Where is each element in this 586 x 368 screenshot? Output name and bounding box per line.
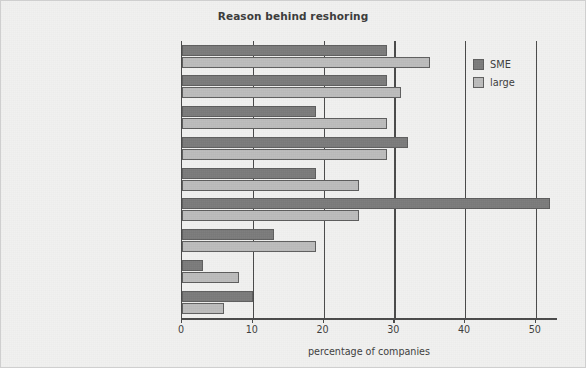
category-row: improve customer collaboration — [182, 287, 556, 318]
x-tick-mark-0 — [181, 318, 182, 323]
x-tick-mark-20 — [323, 318, 324, 323]
legend: SMElarge — [473, 59, 515, 95]
x-tick-label-20: 20 — [303, 324, 343, 335]
x-tick-label-40: 40 — [444, 324, 484, 335]
bar-sme — [182, 291, 253, 302]
legend-label: large — [490, 77, 515, 88]
chart-figure: Reason behind reshoring more certainty o… — [0, 0, 586, 368]
bar-sme — [182, 45, 387, 56]
legend-item-large[interactable]: large — [473, 77, 515, 88]
bar-large — [182, 241, 316, 252]
legend-swatch-icon — [473, 59, 484, 70]
bar-large — [182, 180, 359, 191]
bar-large — [182, 87, 401, 98]
bar-large — [182, 57, 430, 68]
category-row: improve environmental credentials — [182, 256, 556, 287]
x-tick-label-10: 10 — [232, 324, 272, 335]
bar-large — [182, 149, 387, 160]
bar-sme — [182, 75, 387, 86]
category-row: minimize supply chain risks — [182, 164, 556, 195]
chart-title: Reason behind reshoring — [1, 10, 585, 22]
x-axis-title: percentage of companies — [181, 346, 557, 357]
x-axis-line — [181, 318, 557, 320]
category-row: reduce product delivery time — [182, 133, 556, 164]
bar-sme — [182, 137, 408, 148]
bar-sme — [182, 106, 316, 117]
x-tick-label-50: 50 — [515, 324, 555, 335]
x-tick-mark-40 — [464, 318, 465, 323]
x-tick-mark-10 — [252, 318, 253, 323]
legend-swatch-icon — [473, 77, 484, 88]
bar-large — [182, 272, 239, 283]
bar-sme — [182, 168, 316, 179]
category-row: wage inflation overseas — [182, 226, 556, 257]
category-row: reduce inventory costs — [182, 103, 556, 134]
legend-label: SME — [490, 59, 511, 70]
bar-large — [182, 303, 224, 314]
legend-item-sme[interactable]: SME — [473, 59, 515, 70]
x-tick-mark-30 — [393, 318, 394, 323]
bar-sme — [182, 229, 274, 240]
bar-sme — [182, 198, 550, 209]
bar-large — [182, 210, 359, 221]
x-tick-label-30: 30 — [373, 324, 413, 335]
bar-sme — [182, 260, 203, 271]
x-tick-label-0: 0 — [161, 324, 201, 335]
bar-large — [182, 118, 387, 129]
x-tick-mark-50 — [535, 318, 536, 323]
category-row: improve quality of inputs — [182, 195, 556, 226]
